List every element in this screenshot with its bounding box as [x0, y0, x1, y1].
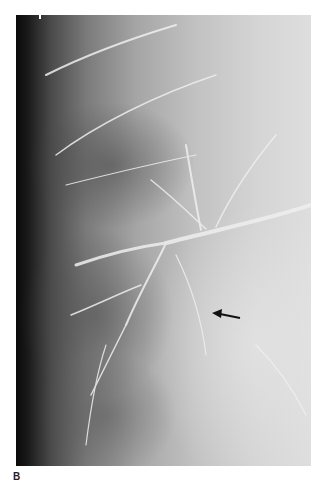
panel-label: B — [13, 471, 20, 482]
corner-marker — [39, 15, 41, 19]
arrow-icon — [212, 309, 240, 318]
radiograph-image — [16, 15, 311, 466]
vessel-overlay — [16, 15, 311, 466]
